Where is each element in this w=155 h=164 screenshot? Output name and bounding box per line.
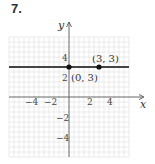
y-axis-label: y <box>57 19 65 32</box>
y-tick: −2 <box>56 113 69 123</box>
point-0-3 <box>66 64 71 69</box>
point-label-0-3: (0, 3) <box>71 72 98 83</box>
x-tick: 4 <box>107 97 113 107</box>
x-tick: −4 <box>25 97 39 107</box>
coordinate-graph: x y −4 −2 2 4 4 2 −2 −4 (0, 3) (3, 3) <box>0 0 155 164</box>
point-3-3 <box>96 64 101 69</box>
x-axis-label: x <box>140 98 147 111</box>
y-tick: −4 <box>56 133 70 143</box>
y-tick: 4 <box>62 53 68 63</box>
y-tick: 2 <box>62 73 68 83</box>
x-tick: −2 <box>44 97 57 107</box>
x-tick: 2 <box>87 97 93 107</box>
point-label-3-3: (3, 3) <box>92 53 119 64</box>
